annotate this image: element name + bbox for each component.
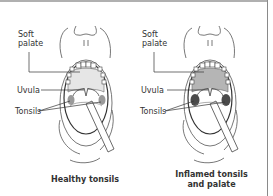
label-tonsils: Tonsils: [15, 107, 41, 116]
tonsil-right: [99, 95, 106, 105]
label-soft-palate: Soft palate: [142, 30, 167, 48]
label-uvula: Uvula: [141, 86, 164, 95]
panel-healthy: Soft palate Uvula Tonsils Healthy tonsil…: [0, 0, 134, 196]
caption-healthy: Healthy tonsils: [40, 175, 130, 185]
tonsil-left: [191, 94, 200, 106]
caption-inflamed: Inflamed tonsils and palate: [164, 170, 259, 190]
label-soft-palate: Soft palate: [18, 30, 43, 48]
label-tonsils: Tonsils: [140, 107, 166, 116]
panel-inflamed: Soft palate Uvula Tonsils Inflamed tonsi…: [134, 0, 268, 196]
label-uvula: Uvula: [17, 86, 40, 95]
